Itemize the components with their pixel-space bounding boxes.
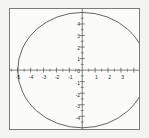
x-tick-label-1: 1 [95, 75, 98, 80]
plot-frame: -5 -4 -3 -2 -1 1 2 3 4 3 2 1 0 -1 -2 -3 … [9, 8, 140, 130]
y-tick-label-0: 0 [72, 69, 80, 74]
y-tick-label-neg3: -3 [70, 104, 80, 109]
x-tick-label-neg5: -5 [16, 75, 20, 80]
chart-screenshot: -5 -4 -3 -2 -1 1 2 3 4 3 2 1 0 -1 -2 -3 … [0, 0, 149, 138]
x-tick-label-2: 2 [108, 75, 111, 80]
x-tick-label-3: 3 [121, 75, 124, 80]
x-tick-label-neg3: -3 [42, 75, 46, 80]
y-tick-label-4: 4 [72, 22, 80, 27]
y-tick-label-3: 3 [72, 33, 80, 38]
x-tick-label-neg4: -4 [29, 75, 33, 80]
y-tick-label-neg4: -4 [70, 116, 80, 121]
y-tick-label-neg2: -2 [70, 92, 80, 97]
y-tick-label-1: 1 [72, 57, 80, 62]
y-tick-label-neg1: -1 [70, 80, 80, 85]
x-tick-label-neg1: -1 [68, 75, 72, 80]
x-tick-label-neg2: -2 [55, 75, 59, 80]
y-tick-label-2: 2 [72, 45, 80, 50]
